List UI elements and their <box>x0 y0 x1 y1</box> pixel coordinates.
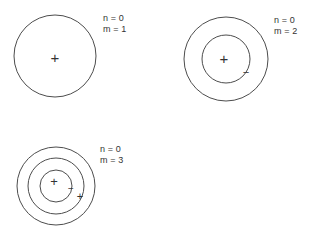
quantum-number-label-panel-m2: n = 0m = 2 <box>274 15 297 36</box>
nodal-circle-figure: ++−+−+ n = 0m = 1n = 0m = 2n = 0m = 3 <box>0 0 315 230</box>
positive-sign-1: + <box>51 49 60 66</box>
negative-sign-2: − <box>243 66 249 78</box>
quantum-number-label-panel-m1: n = 0m = 1 <box>103 13 126 34</box>
label-m-value: m = 1 <box>103 24 126 35</box>
label-m-value: m = 3 <box>100 155 123 166</box>
figure-canvas: ++−+−+ <box>0 0 315 230</box>
positive-sign-1: + <box>50 174 58 189</box>
positive-sign-1: + <box>220 50 229 67</box>
panel-group-panel-m1: + <box>14 15 96 97</box>
label-n-value: n = 0 <box>103 13 126 24</box>
panel-group-panel-m3: +−+ <box>17 147 95 225</box>
label-m-value: m = 2 <box>274 26 297 37</box>
quantum-number-label-panel-m3: n = 0m = 3 <box>100 144 123 165</box>
label-n-value: n = 0 <box>100 144 123 155</box>
positive-sign-3: + <box>77 190 83 202</box>
panel-group-panel-m2: +− <box>184 17 268 101</box>
label-n-value: n = 0 <box>274 15 297 26</box>
negative-sign-2: − <box>68 183 74 194</box>
